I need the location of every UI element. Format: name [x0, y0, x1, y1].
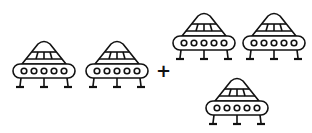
- ufo-icon: [172, 12, 236, 62]
- ufo-icon: [242, 12, 306, 62]
- ufo-icon: [205, 77, 269, 127]
- ufo-icon: [85, 40, 149, 90]
- ufo-icon: [12, 40, 76, 90]
- plus-sign: +: [156, 62, 171, 80]
